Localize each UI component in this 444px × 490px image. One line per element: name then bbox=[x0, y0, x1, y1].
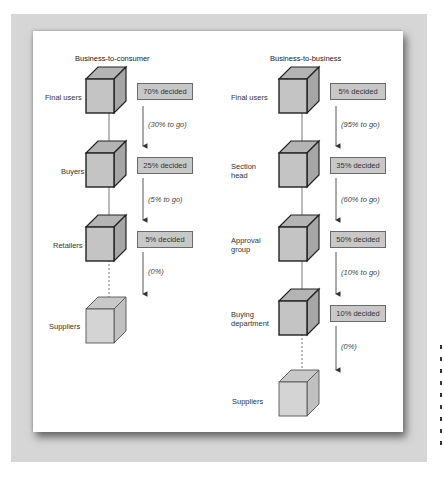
b2c-decided-buyers: 25% decided bbox=[137, 157, 193, 174]
b2b-label-approval-group-line2: group bbox=[231, 245, 261, 254]
cube-b2c-buyers bbox=[86, 141, 126, 187]
b2b-label-approval-group: Approval group bbox=[231, 236, 261, 254]
b2b-label-buying-department-line1: Buying bbox=[231, 310, 269, 319]
b2c-title: Business-to-consumer bbox=[75, 54, 150, 63]
b2c-label-final-users: Final users bbox=[45, 93, 82, 102]
cube-b2b-final-users bbox=[279, 67, 319, 113]
b2b-label-suppliers: Suppliers bbox=[232, 397, 263, 406]
b2b-decided-final-users: 5% decided bbox=[330, 83, 386, 100]
b2b-label-section-head-line1: Section bbox=[231, 162, 256, 171]
b2b-decided-approval-group: 50% decided bbox=[330, 231, 386, 248]
cube-b2b-section-head bbox=[279, 141, 319, 187]
cube-b2c-retailers bbox=[86, 215, 126, 261]
b2b-togo-1: (95% to go) bbox=[341, 120, 380, 129]
cube-b2b-suppliers bbox=[279, 370, 319, 416]
cube-b2c-final-users bbox=[86, 67, 126, 113]
cube-b2b-buying-department bbox=[279, 289, 319, 335]
b2c-label-buyers: Buyers bbox=[61, 167, 84, 176]
b2c-togo-2: (5% to go) bbox=[148, 195, 183, 204]
b2b-decided-section-head: 35% decided bbox=[330, 157, 386, 174]
b2c-label-suppliers: Suppliers bbox=[49, 322, 80, 331]
b2c-label-retailers: Retailers bbox=[53, 241, 83, 250]
b2c-togo-3: (0%) bbox=[148, 267, 164, 276]
b2b-togo-3: (10% to go) bbox=[341, 268, 380, 277]
b2b-label-buying-department: Buying department bbox=[231, 310, 269, 328]
cube-b2b-approval-group bbox=[279, 215, 319, 261]
b2b-label-section-head-line2: head bbox=[231, 171, 256, 180]
page-edge-text-fragments bbox=[440, 345, 444, 453]
b2c-decided-retailers: 5% decided bbox=[137, 231, 193, 248]
b2b-label-section-head: Section head bbox=[231, 162, 256, 180]
b2b-togo-2: (60% to go) bbox=[341, 195, 380, 204]
b2c-togo-1: (30% to go) bbox=[148, 120, 187, 129]
b2b-label-approval-group-line1: Approval bbox=[231, 236, 261, 245]
b2b-label-buying-department-line2: department bbox=[231, 319, 269, 328]
b2c-decided-final-users: 70% decided bbox=[137, 83, 193, 100]
b2b-togo-4: (0%) bbox=[341, 342, 357, 351]
b2b-decided-buying-department: 10% decided bbox=[330, 305, 386, 322]
cube-b2c-suppliers bbox=[86, 297, 126, 343]
b2b-title: Business-to-business bbox=[270, 54, 341, 63]
b2b-label-final-users: Final users bbox=[231, 93, 268, 102]
